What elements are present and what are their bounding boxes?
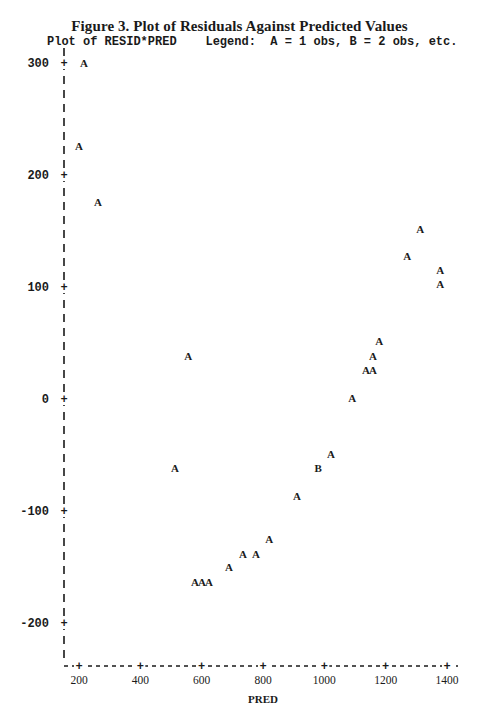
x-axis: +200+400+600+800+1000+1200+1400 [64, 660, 459, 686]
data-point-a: A [403, 250, 411, 262]
x-axis-label: PRED [248, 693, 278, 705]
x-tick-label: 800 [254, 674, 272, 686]
y-tick-mark: + [60, 617, 67, 631]
y-tick-label: -200 [20, 617, 49, 631]
y-tick-label: 100 [27, 281, 49, 295]
residual-scatter-plot: 300+200+100+0+-100+-200+ +200+400+600+80… [0, 0, 479, 726]
data-point-a: A [75, 140, 83, 152]
x-tick-mark: + [382, 660, 389, 674]
data-point-a: A [293, 490, 301, 502]
data-point-a: A [375, 335, 383, 347]
data-point-a: A [416, 223, 424, 235]
data-point-a: A [265, 533, 273, 545]
data-point-a: A [369, 350, 377, 362]
data-point-a: A [252, 548, 260, 560]
y-tick-mark: + [60, 393, 67, 407]
x-tick-label: 1000 [313, 674, 336, 686]
x-tick-mark: + [75, 660, 82, 674]
y-tick-label: 200 [27, 169, 49, 183]
x-tick-label: 600 [193, 674, 211, 686]
y-axis: 300+200+100+0+-100+-200+ [20, 48, 69, 660]
data-points: AAAAAAAAAAAAABAAAAAAAAAA [75, 57, 444, 588]
data-point-a: A [184, 350, 192, 362]
data-point-a: A [94, 196, 102, 208]
y-tick-mark: + [60, 169, 67, 183]
data-point-a: A [225, 561, 233, 573]
x-tick-mark: + [198, 660, 205, 674]
data-point-a: A [436, 278, 444, 290]
x-tick-label: 1200 [374, 674, 397, 686]
x-tick-mark: + [321, 660, 328, 674]
data-point-a: A [239, 548, 247, 560]
x-tick-mark: + [137, 660, 144, 674]
x-tick-label: 400 [132, 674, 150, 686]
x-tick-label: 200 [70, 674, 88, 686]
y-tick-mark: + [60, 281, 67, 295]
data-point-a: A [205, 576, 213, 588]
y-tick-label: 300 [27, 57, 49, 71]
y-tick-mark: + [60, 57, 67, 71]
data-point-b: B [315, 462, 323, 474]
x-tick-label: 1400 [436, 674, 459, 686]
data-point-a: A [369, 364, 377, 376]
y-tick-label: 0 [42, 393, 49, 407]
x-tick-mark: + [259, 660, 266, 674]
data-point-a: A [436, 264, 444, 276]
y-tick-label: -100 [20, 505, 49, 519]
y-tick-mark: + [60, 505, 67, 519]
data-point-a: A [348, 392, 356, 404]
data-point-a: A [171, 462, 179, 474]
x-tick-mark: + [443, 660, 450, 674]
data-point-a: A [327, 448, 335, 460]
data-point-a: A [80, 57, 88, 69]
